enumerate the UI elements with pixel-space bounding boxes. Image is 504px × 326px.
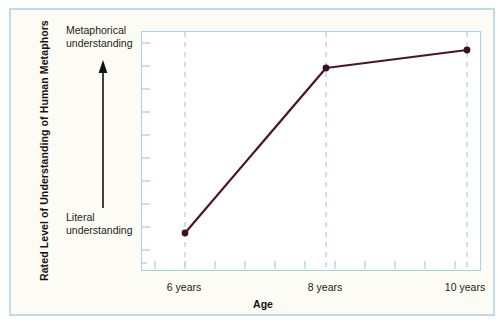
up-arrow-icon	[97, 60, 109, 208]
y-axis-high-anchor-label: Metaphorical understanding	[66, 24, 146, 49]
x-tick-label-10-years: 10 years	[430, 281, 500, 293]
data-point-8-years	[323, 65, 330, 72]
x-tick-label-8-years: 8 years	[290, 281, 360, 293]
line-chart-svg	[142, 32, 479, 269]
y-axis-ticks	[142, 43, 150, 263]
y-axis-title: Rated Level of Understanding of Human Me…	[38, 31, 50, 281]
figure-card: Rated Level of Understanding of Human Me…	[9, 8, 495, 316]
x-axis-ticks	[155, 261, 455, 269]
x-tick-label-6-years: 6 years	[149, 281, 219, 293]
y-axis-low-anchor-label: Literal understanding	[66, 211, 146, 236]
data-point-10-years	[464, 47, 471, 54]
x-axis-title: Age	[11, 298, 504, 310]
figure-page: Rated Level of Understanding of Human Me…	[0, 0, 504, 326]
plot-area	[141, 31, 481, 271]
data-point-6-years	[182, 230, 189, 237]
